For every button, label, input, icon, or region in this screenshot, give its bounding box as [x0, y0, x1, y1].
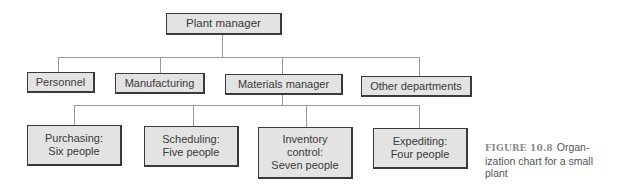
connector-to-other-departments: [419, 57, 420, 76]
node-plant-manager: Plant manager: [166, 13, 282, 35]
node-materials-manager: Materials manager: [225, 74, 343, 95]
connector-to-manufacturing: [160, 57, 161, 73]
node-inventory-control: Inventory control: Seven people: [258, 127, 353, 179]
connector-level2-bus: [74, 105, 420, 106]
connector-level1-bus: [58, 57, 420, 58]
node-expediting: Expediting: Four people: [373, 128, 468, 169]
connector-to-personnel: [58, 57, 59, 73]
node-other-departments: Other departments: [361, 76, 472, 97]
connector-to-materials-manager: [282, 57, 283, 74]
organization-chart: Plant manager Personnel Manufacturing Ma…: [0, 0, 621, 193]
connector-materials-down: [282, 94, 283, 105]
node-manufacturing: Manufacturing: [115, 73, 205, 94]
connector-to-inventory-control: [306, 105, 307, 127]
connector-to-expediting: [419, 105, 420, 128]
figure-number: FIGURE 10.8: [485, 143, 553, 153]
figure-caption: FIGURE 10.8Organ-ization chart for a sma…: [485, 141, 620, 180]
connector-to-purchasing: [74, 105, 75, 125]
node-scheduling: Scheduling: Five people: [144, 126, 239, 167]
node-personnel: Personnel: [27, 72, 95, 93]
connector-root-down: [222, 34, 223, 57]
connector-to-scheduling: [193, 105, 194, 126]
node-purchasing: Purchasing: Six people: [27, 125, 122, 166]
